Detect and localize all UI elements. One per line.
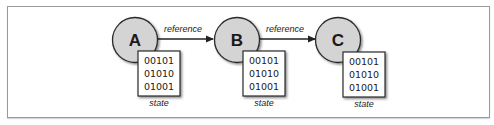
state-row: 01001 xyxy=(144,81,174,92)
node-label: B xyxy=(231,31,243,50)
edge-label: reference xyxy=(164,24,202,34)
node-c: C 00101 01010 01001 state xyxy=(316,18,386,110)
edge-label: reference xyxy=(266,24,304,34)
state-row: 00101 xyxy=(144,55,174,66)
state-row: 01010 xyxy=(349,69,379,80)
node-label: A xyxy=(129,31,141,50)
edge-a-to-b: reference xyxy=(157,24,213,39)
edge-b-to-c: reference xyxy=(260,24,315,39)
state-label: state xyxy=(354,99,374,109)
state-label: state xyxy=(149,98,169,108)
state-row: 01010 xyxy=(144,68,174,79)
state-label: state xyxy=(254,98,274,108)
node-label: C xyxy=(332,31,344,50)
state-row: 01001 xyxy=(249,81,279,92)
state-row: 00101 xyxy=(349,56,379,67)
state-row: 00101 xyxy=(249,55,279,66)
diagram-canvas: reference reference A 00101 01010 01001 … xyxy=(0,0,494,125)
state-row: 01001 xyxy=(349,82,379,93)
state-row: 01010 xyxy=(249,68,279,79)
